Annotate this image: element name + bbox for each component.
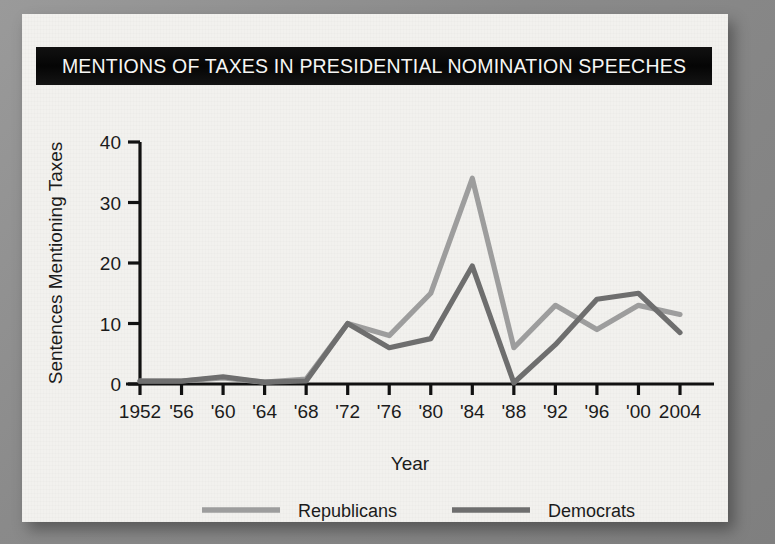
x-tick-label: '56 [169,401,194,422]
series-layer [140,178,680,382]
x-tick-label: 1952 [119,401,161,422]
x-tick-label: '84 [460,401,485,422]
y-axis-title: Sentences Mentioning Taxes [45,142,66,385]
x-tick-label: '68 [294,401,319,422]
series-line-republicans [140,178,680,382]
y-tick-label: 40 [100,132,121,153]
x-tick-label: '92 [543,401,568,422]
x-tick-label: '60 [211,401,236,422]
series-line-democrats [140,266,680,383]
x-tick-label: '76 [377,401,402,422]
y-tick-label: 30 [100,193,121,214]
legend-label-democrats: Democrats [548,501,635,521]
y-tick-label: 20 [100,253,121,274]
x-tick-label: '64 [252,401,277,422]
y-tick-label: 0 [110,374,121,395]
line-chart-svg: 0102030401952'56'60'64'68'72'76'80'84'88… [22,94,728,522]
x-tick-label: '72 [335,401,360,422]
x-tick-label: '80 [418,401,443,422]
chart-title: MENTIONS OF TAXES IN PRESIDENTIAL NOMINA… [62,55,686,78]
x-tick-label: '00 [626,401,651,422]
title-banner: MENTIONS OF TAXES IN PRESIDENTIAL NOMINA… [36,47,712,85]
x-tick-label: '96 [585,401,610,422]
axis-layer [126,142,714,384]
legend-label-republicans: Republicans [298,501,397,521]
x-tick-label: '88 [501,401,526,422]
legend-layer: RepublicansDemocrats [202,501,635,521]
x-tick-label: 2004 [659,401,702,422]
x-axis-title: Year [391,453,430,474]
chart-plot-area: 0102030401952'56'60'64'68'72'76'80'84'88… [22,94,728,522]
figure-card: MENTIONS OF TAXES IN PRESIDENTIAL NOMINA… [22,14,728,522]
y-tick-label: 10 [100,314,121,335]
